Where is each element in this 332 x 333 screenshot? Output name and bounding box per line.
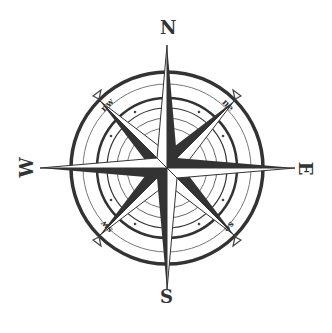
label-east: E xyxy=(295,162,316,176)
cardinal-points xyxy=(40,45,295,290)
label-north: N xyxy=(160,17,176,38)
label-west: W xyxy=(16,157,37,177)
compass-rose xyxy=(0,0,332,333)
label-south: S xyxy=(160,286,173,307)
